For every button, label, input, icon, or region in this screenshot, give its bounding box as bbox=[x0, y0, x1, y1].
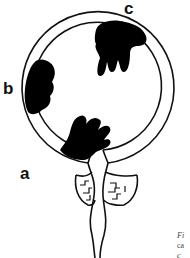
label-c: c bbox=[124, 0, 133, 17]
sac-diagram bbox=[0, 0, 190, 258]
mass-c bbox=[95, 20, 147, 76]
right-bulb bbox=[104, 175, 137, 205]
mass-b bbox=[25, 59, 55, 114]
label-b: b bbox=[3, 80, 13, 97]
label-a: a bbox=[20, 165, 29, 182]
caption-line-3: c bbox=[177, 251, 184, 258]
mass-a bbox=[60, 115, 111, 160]
caption-line-2: ca bbox=[177, 241, 184, 251]
figure-caption-fragment: Fi ca c bbox=[177, 231, 184, 258]
diagram-figure: c b a Fi ca c bbox=[0, 0, 190, 258]
caption-line-1: Fi bbox=[177, 231, 184, 241]
left-bulb bbox=[76, 175, 96, 205]
